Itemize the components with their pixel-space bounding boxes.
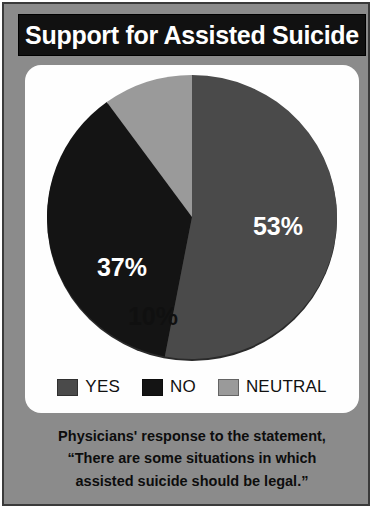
poster-frame: Support for Assisted Suicide 53% 37% 10% [2, 2, 370, 506]
legend-item-neutral[interactable]: NEUTRAL [218, 377, 327, 397]
chart-legend: YES NO NEUTRAL [25, 365, 359, 409]
legend-swatch-yes-icon [57, 379, 78, 396]
legend-swatch-neutral-icon [218, 379, 239, 396]
pie-label-neutral: 10% [128, 302, 178, 330]
chart-caption: Physicians' response to the statement, “… [18, 418, 366, 500]
legend-label-neutral: NEUTRAL [246, 377, 327, 397]
chart-card: 53% 37% 10% YES NO NEUTRAL [25, 65, 359, 413]
caption-line-2: “There are some situations in which [68, 448, 317, 469]
legend-item-yes[interactable]: YES [57, 377, 120, 397]
legend-swatch-no-icon [142, 379, 163, 396]
caption-line-1: Physicians' response to the statement, [58, 426, 326, 447]
caption-line-3: assisted suicide should be legal.” [76, 471, 309, 492]
page-title: Support for Assisted Suicide [25, 23, 359, 48]
legend-label-yes: YES [85, 377, 120, 397]
legend-item-no[interactable]: NO [142, 377, 196, 397]
poster-root: Support for Assisted Suicide 53% 37% 10% [0, 0, 376, 514]
pie-label-yes: 53% [253, 212, 303, 240]
pie-chart: 53% 37% 10% [25, 67, 359, 367]
legend-label-no: NO [170, 377, 196, 397]
pie-label-no: 37% [97, 253, 147, 281]
pie-chart-svg: 53% 37% 10% [25, 67, 359, 367]
title-bar: Support for Assisted Suicide [18, 14, 366, 56]
